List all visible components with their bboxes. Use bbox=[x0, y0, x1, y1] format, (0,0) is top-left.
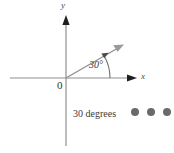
dot-2 bbox=[147, 108, 155, 116]
x-axis-label: x bbox=[141, 72, 145, 81]
dot-3 bbox=[163, 108, 171, 116]
origin-label: 0 bbox=[57, 80, 63, 91]
angle-diagram-figure: y x 0 30° 30 degrees bbox=[0, 0, 174, 153]
dot-group bbox=[131, 108, 171, 116]
dot-1 bbox=[131, 108, 139, 116]
y-axis-label: y bbox=[61, 1, 65, 10]
terminal-ray-arrowhead bbox=[113, 45, 124, 52]
x-axis-arrowhead bbox=[127, 74, 137, 81]
figure-caption: 30 degrees bbox=[73, 109, 116, 119]
angle-arc bbox=[104, 56, 110, 78]
coordinate-plane-svg bbox=[0, 0, 174, 153]
angle-measure-label: 30° bbox=[89, 60, 103, 70]
y-axis-arrowhead bbox=[62, 15, 69, 25]
